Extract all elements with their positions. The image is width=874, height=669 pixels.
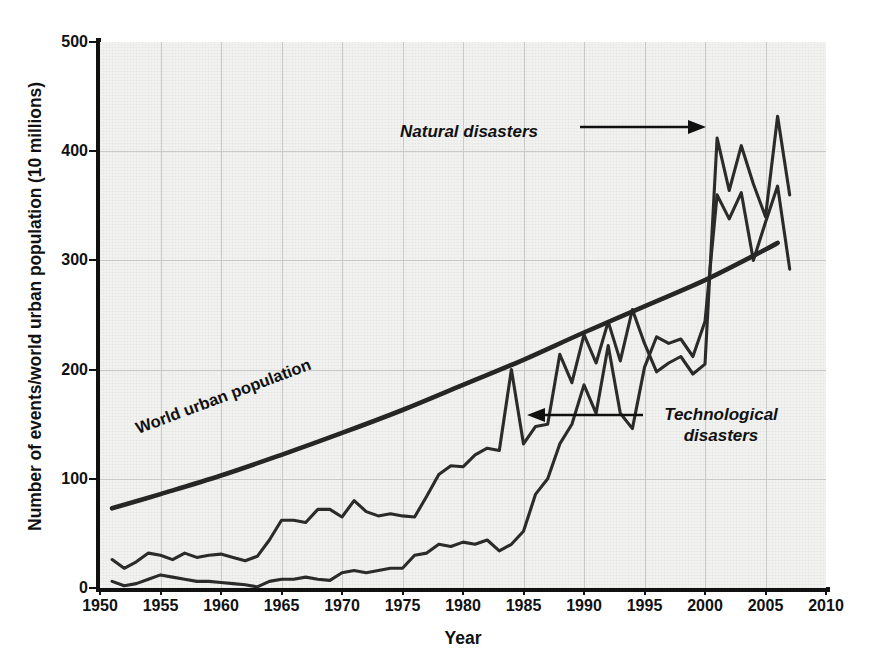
x-tick	[402, 588, 404, 595]
y-tick	[89, 41, 100, 43]
annotation-technological-disasters: Technological disasters	[651, 405, 791, 446]
x-tick	[341, 588, 343, 595]
chart-figure: Number of events/world urban population …	[0, 0, 874, 669]
x-tick	[523, 588, 525, 595]
x-tick-label: 2005	[748, 597, 784, 615]
x-tick-label: 1995	[627, 597, 663, 615]
x-tick-label: 2010	[808, 597, 844, 615]
x-tick	[704, 588, 706, 595]
x-tick	[99, 588, 101, 595]
x-tick	[765, 588, 767, 595]
y-tick-label: 0	[79, 579, 88, 597]
y-tick	[89, 259, 100, 261]
x-tick	[281, 588, 283, 595]
natural-disasters-arrow	[578, 114, 710, 140]
x-tick-label: 1970	[324, 597, 360, 615]
x-tick	[644, 588, 646, 595]
x-tick	[220, 588, 222, 595]
x-tick-label: 1965	[264, 597, 300, 615]
x-tick	[160, 588, 162, 595]
x-tick	[583, 588, 585, 595]
y-tick	[89, 587, 100, 589]
y-tick-label: 500	[61, 33, 88, 51]
y-tick-label: 200	[61, 361, 88, 379]
y-tick	[89, 150, 100, 152]
x-tick-label: 1990	[566, 597, 602, 615]
x-tick-label: 1950	[82, 597, 118, 615]
y-tick	[89, 369, 100, 371]
x-axis-title: Year	[100, 628, 826, 649]
technological-disasters-arrow	[525, 402, 653, 428]
y-tick-labels: 0100200300400500	[36, 42, 88, 588]
series-natural-disasters	[112, 116, 790, 568]
annotation-technological-line2: disasters	[684, 426, 759, 445]
x-tick-label: 2000	[687, 597, 723, 615]
y-tick-label: 300	[61, 251, 88, 269]
x-tick-label: 1980	[445, 597, 481, 615]
x-tick	[825, 588, 827, 595]
annotation-technological-line1: Technological	[664, 405, 778, 424]
annotation-natural-disasters: Natural disasters	[400, 122, 538, 142]
x-tick	[462, 588, 464, 595]
x-tick-label: 1985	[506, 597, 542, 615]
x-tick-label: 1955	[143, 597, 179, 615]
x-tick-label: 1960	[203, 597, 239, 615]
y-tick-label: 100	[61, 470, 88, 488]
x-tick-label: 1975	[385, 597, 421, 615]
y-tick	[89, 478, 100, 480]
y-tick-label: 400	[61, 142, 88, 160]
series-technological-disasters	[112, 186, 790, 587]
